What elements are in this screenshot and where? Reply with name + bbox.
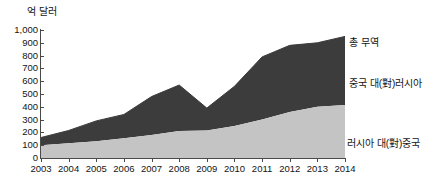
x-axis-line	[40, 158, 346, 159]
x-tick-mark	[179, 158, 180, 162]
y-tick-label: 100	[4, 140, 38, 150]
trade-area-chart: 억 달러 01002003004005006007008009001,000 2…	[0, 0, 436, 183]
x-tick-mark	[69, 158, 70, 162]
area-series-svg	[41, 30, 345, 158]
x-tick-label: 2004	[58, 164, 79, 174]
y-tick-label: 800	[4, 51, 38, 61]
y-tick-label: 600	[4, 76, 38, 86]
x-tick-mark	[124, 158, 125, 162]
x-tick-mark	[41, 158, 42, 162]
y-tick-label: 200	[4, 127, 38, 137]
x-tick-mark	[234, 158, 235, 162]
x-tick-mark	[317, 158, 318, 162]
x-axis-tick-labels: 2003200420052006200720082009201020112012…	[0, 164, 436, 180]
y-tick-mark	[41, 81, 44, 82]
x-tick-label: 2008	[169, 164, 190, 174]
y-tick-mark	[41, 94, 44, 95]
x-tick-label: 2010	[224, 164, 245, 174]
x-tick-label: 2009	[196, 164, 217, 174]
x-tick-label: 2011	[252, 164, 272, 174]
x-tick-label: 2013	[307, 164, 328, 174]
y-tick-mark	[41, 68, 44, 69]
x-tick-label: 2006	[113, 164, 134, 174]
y-tick-mark	[41, 132, 44, 133]
y-tick-label: 0	[4, 153, 38, 163]
y-tick-label: 900	[4, 38, 38, 48]
y-axis-tick-labels: 01002003004005006007008009001,000	[0, 0, 38, 183]
y-tick-mark	[41, 107, 44, 108]
x-tick-label: 2007	[141, 164, 162, 174]
y-tick-label: 300	[4, 115, 38, 125]
series-label-china-to-russia: 중국 대(對)러시아	[349, 78, 422, 89]
y-tick-label: 400	[4, 102, 38, 112]
x-tick-mark	[262, 158, 263, 162]
y-tick-mark	[41, 120, 44, 121]
x-tick-mark	[96, 158, 97, 162]
y-tick-mark	[41, 43, 44, 44]
plot-area	[41, 30, 345, 158]
x-tick-mark	[345, 158, 346, 162]
y-tick-label: 500	[4, 89, 38, 99]
y-tick-mark	[41, 145, 44, 146]
x-tick-mark	[290, 158, 291, 162]
y-tick-mark	[41, 30, 44, 31]
x-tick-label: 2014	[334, 164, 355, 174]
y-tick-label: 1,000	[4, 25, 38, 35]
x-tick-label: 2005	[86, 164, 107, 174]
x-tick-label: 2003	[30, 164, 51, 174]
x-tick-mark	[152, 158, 153, 162]
x-tick-mark	[207, 158, 208, 162]
series-label-russia-to-china: 러시아 대(對)중국	[347, 138, 420, 149]
y-tick-mark	[41, 56, 44, 57]
x-tick-label: 2012	[279, 164, 300, 174]
y-tick-label: 700	[4, 63, 38, 73]
series-label-total-trade: 총 무역	[349, 37, 379, 48]
